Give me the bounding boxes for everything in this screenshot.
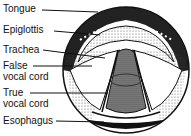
label-true-vocal-cord-line2: vocal cord	[3, 99, 49, 109]
label-epiglottis: Epiglottis	[3, 25, 44, 35]
larynx-diagram: Tongue Epiglottis Trachea False vocal co…	[0, 0, 191, 136]
label-trachea: Trachea	[3, 45, 39, 55]
label-false-vocal-cord-line2: vocal cord	[3, 72, 49, 82]
label-false-vocal-cord-line1: False	[3, 61, 27, 71]
label-true-vocal-cord-line1: True	[3, 88, 23, 98]
label-tongue: Tongue	[3, 4, 36, 14]
label-esophagus: Esophagus	[3, 116, 53, 126]
